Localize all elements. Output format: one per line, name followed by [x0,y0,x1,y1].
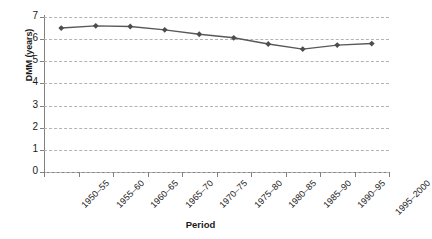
series-polyline [61,26,372,49]
x-axis-tick-mark [320,172,321,177]
data-point-marker [369,41,375,47]
data-point-marker [162,27,168,33]
x-axis-tick-label: 1995–2000 [393,178,432,217]
data-point-marker [58,25,64,31]
x-axis-tick-mark [286,172,287,177]
data-point-marker [93,23,99,29]
x-axis-tick-label: 1980–85 [287,178,319,210]
y-axis-tick-label: 0 [18,166,38,176]
y-axis-tick-label: 4 [18,77,38,87]
y-axis-tick-label: 3 [18,100,38,110]
data-point-marker [300,46,306,52]
y-axis-tick-label: 5 [18,55,38,65]
x-axis-tick-mark [148,172,149,177]
x-axis-tick-mark [182,172,183,177]
x-axis-tick-label: 1990–95 [356,178,388,210]
data-point-marker [265,41,271,47]
data-point-marker [334,42,340,48]
data-point-marker [231,35,237,41]
x-axis-tick-label: 1950–55 [80,178,112,210]
x-axis-tick-mark [113,172,114,177]
data-series-line [44,17,389,172]
x-axis-tick-mark [389,172,390,177]
x-axis-title: Period [0,219,401,230]
data-point-marker [196,31,202,37]
y-axis-tick-label: 1 [18,144,38,154]
x-axis-tick-mark [355,172,356,177]
y-axis-tick-label: 2 [18,122,38,132]
data-point-marker [127,24,133,30]
x-axis-tick-mark [217,172,218,177]
x-axis-tick-label: 1955–60 [114,178,146,210]
x-axis-tick-mark [251,172,252,177]
x-axis-tick-mark [79,172,80,177]
x-axis-tick-label: 1965–70 [183,178,215,210]
x-axis-tick-label: 1975–80 [252,178,284,210]
y-axis-tick-label: 7 [18,11,38,21]
x-axis-tick-label: 1960–65 [149,178,181,210]
x-axis-tick-label: 1985–90 [321,178,353,210]
x-axis-tick-mark [44,172,45,177]
x-axis-tick-label: 1970–75 [218,178,250,210]
y-axis-tick-label: 6 [18,33,38,43]
plot-area [44,17,389,172]
